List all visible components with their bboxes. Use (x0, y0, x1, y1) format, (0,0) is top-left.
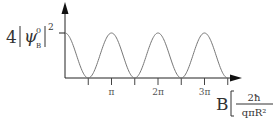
x-tick-label: π (109, 87, 115, 97)
x-label-variable: B (216, 94, 229, 114)
y-label-coefficient: 4 (6, 27, 17, 47)
oscillation-plot: π2π3π 4 ψ 0 B 2 B 2ħ qπR² (0, 0, 278, 124)
y-axis-label: 4 ψ 0 B 2 (6, 22, 54, 50)
y-label-subscript: B (36, 42, 41, 50)
x-tick-label: 2π (152, 87, 164, 97)
x-tick-label: 3π (199, 87, 211, 97)
y-axis-arrowhead-icon (62, 2, 69, 14)
x-label-bracket (231, 91, 234, 116)
y-label-power: 2 (48, 22, 54, 32)
x-axis-label: B 2ħ qπR² (216, 91, 273, 118)
x-label-numerator: 2ħ (248, 92, 261, 103)
x-label-denominator: qπR² (242, 107, 267, 118)
y-label-superscript: 0 (36, 26, 41, 35)
x-axis-arrowhead-icon (230, 75, 242, 82)
cos-squared-curve (65, 33, 228, 78)
